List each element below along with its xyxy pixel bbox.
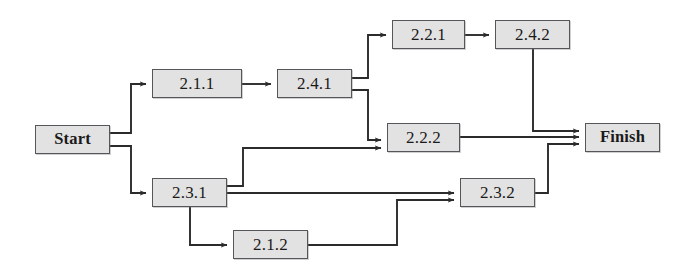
node-label: 2.1.1 (180, 75, 215, 92)
edge-n212-to-n232 (308, 200, 454, 245)
edge-n231-to-n212 (190, 207, 227, 245)
node-finish[interactable]: Finish (585, 123, 660, 152)
edge-n242-to-finish (533, 49, 579, 131)
node-n211[interactable]: 2.1.1 (152, 69, 242, 98)
node-label: 2.3.2 (480, 184, 515, 201)
node-label: 2.4.2 (515, 26, 550, 43)
edge-n231-to-n222 (227, 148, 381, 186)
node-label: 2.2.1 (411, 26, 446, 43)
node-n212[interactable]: 2.1.2 (233, 230, 308, 259)
edge-n232-to-finish (535, 144, 579, 193)
edge-start-to-n211 (110, 84, 146, 133)
node-start[interactable]: Start (35, 125, 110, 154)
node-n222[interactable]: 2.2.2 (387, 123, 460, 152)
node-n221[interactable]: 2.2.1 (392, 20, 465, 49)
node-n242[interactable]: 2.4.2 (495, 20, 570, 49)
node-label: 2.2.2 (406, 129, 441, 146)
node-n231[interactable]: 2.3.1 (152, 178, 227, 207)
flowchart-diagram: Start2.1.12.4.12.2.12.4.22.2.22.3.12.3.2… (0, 0, 691, 278)
node-label: Finish (600, 129, 645, 146)
node-label: 2.4.1 (297, 75, 332, 92)
edge-n241-to-n221 (352, 35, 386, 78)
edge-start-to-n231 (110, 146, 146, 193)
node-n241[interactable]: 2.4.1 (277, 69, 352, 98)
node-n232[interactable]: 2.3.2 (460, 178, 535, 207)
edge-n241-to-n222 (352, 90, 381, 140)
node-label: 2.3.1 (172, 184, 207, 201)
node-label: 2.1.2 (253, 236, 288, 253)
node-label: Start (54, 131, 91, 148)
